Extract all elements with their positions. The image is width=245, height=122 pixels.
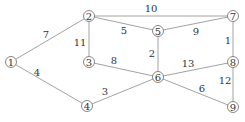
edge-weight-4-6: 3 xyxy=(102,86,108,97)
node-label: 4 xyxy=(84,101,90,112)
edge-weight-5-7: 9 xyxy=(193,26,199,37)
node-6: 6 xyxy=(153,72,164,84)
edge-weight-6-9: 6 xyxy=(199,83,205,94)
node-label: 8 xyxy=(230,57,236,68)
node-3: 3 xyxy=(84,57,95,69)
edge-labels-layer: 74115108329136112 xyxy=(34,3,232,97)
node-7: 7 xyxy=(228,11,239,23)
node-2: 2 xyxy=(84,11,95,23)
edge-weight-1-4: 4 xyxy=(34,67,40,78)
node-label: 3 xyxy=(86,57,92,68)
edge-weight-5-6: 2 xyxy=(149,48,155,59)
edge-weight-7-8: 1 xyxy=(225,35,231,46)
node-8: 8 xyxy=(228,57,239,69)
node-5: 5 xyxy=(153,26,164,38)
edge-weight-8-9: 12 xyxy=(219,75,232,86)
edge-weight-2-5: 5 xyxy=(121,25,127,36)
node-label: 1 xyxy=(8,57,14,68)
weighted-graph: 74115108329136112 123456789 xyxy=(0,0,245,122)
node-4: 4 xyxy=(82,101,93,113)
edge-weight-2-3: 11 xyxy=(74,37,87,48)
edge-1-4 xyxy=(11,62,87,106)
node-label: 9 xyxy=(230,102,236,113)
node-label: 2 xyxy=(86,11,92,22)
node-label: 7 xyxy=(230,11,236,22)
edge-4-6 xyxy=(87,77,158,106)
edge-weight-3-6: 8 xyxy=(111,55,117,66)
edge-weight-2-7: 10 xyxy=(145,3,158,14)
node-label: 5 xyxy=(155,26,161,37)
edge-weight-1-2: 7 xyxy=(43,29,49,40)
edge-3-6 xyxy=(89,62,158,77)
node-label: 6 xyxy=(155,72,161,83)
edge-weight-6-8: 13 xyxy=(182,58,195,69)
node-9: 9 xyxy=(228,102,239,114)
node-1: 1 xyxy=(6,57,17,69)
